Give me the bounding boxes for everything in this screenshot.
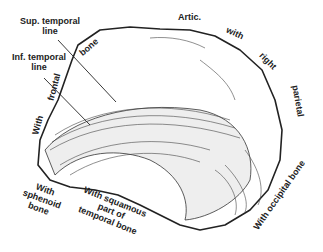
label-sup-temporal-line: Sup. temporal line (20, 16, 80, 36)
label-line-1: Inf. temporal (12, 52, 66, 62)
label-line-2: line (12, 62, 66, 72)
label-artic: Artic. (178, 12, 201, 22)
label-line-2: line (20, 26, 80, 36)
label-line-1: Sup. temporal (20, 16, 80, 26)
label-inf-temporal-line: Inf. temporal line (12, 52, 66, 72)
